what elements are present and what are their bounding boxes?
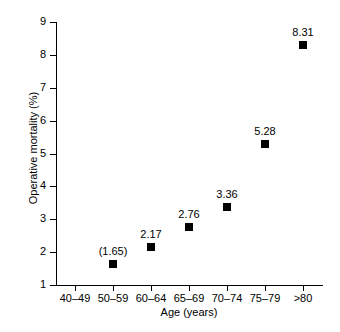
- y-axis-tick-label: 7: [28, 82, 46, 93]
- data-point-marker: [147, 243, 155, 251]
- data-point-label: (1.65): [78, 246, 148, 257]
- y-axis-tick: [50, 252, 56, 253]
- y-axis-tick-label: 8: [28, 49, 46, 60]
- data-point-label: 8.31: [268, 27, 338, 38]
- y-axis-tick: [50, 186, 56, 187]
- y-axis-tick: [50, 88, 56, 89]
- data-point-marker: [223, 203, 231, 211]
- y-axis-line: [56, 22, 57, 286]
- data-point-label: 2.17: [116, 229, 186, 240]
- y-axis-tick: [50, 22, 56, 23]
- x-axis-title: Age (years): [56, 306, 322, 318]
- y-axis-tick-label: 1: [28, 279, 46, 290]
- y-axis-tick: [50, 154, 56, 155]
- y-axis-tick-label: 3: [28, 213, 46, 224]
- x-axis-tick: [189, 285, 190, 291]
- data-point-label: 3.36: [192, 189, 262, 200]
- x-axis-tick: [113, 285, 114, 291]
- y-axis-tick-label: 9: [28, 16, 46, 27]
- data-point-label: 2.76: [154, 209, 224, 220]
- y-axis-tick: [50, 285, 56, 286]
- data-point-marker: [261, 140, 269, 148]
- y-axis-tick-label: 2: [28, 246, 46, 257]
- data-point-marker: [109, 260, 117, 268]
- x-axis-tick: [265, 285, 266, 291]
- x-axis-tick: [151, 285, 152, 291]
- data-point-marker: [299, 41, 307, 49]
- operative-mortality-by-age-chart: Operative mortality (%) 123456789 40–495…: [0, 0, 340, 332]
- x-axis-tick: [227, 285, 228, 291]
- x-axis-tick-label: >80: [273, 292, 333, 304]
- y-axis-tick-label: 4: [28, 180, 46, 191]
- y-axis-tick-label: 5: [28, 148, 46, 159]
- data-point-label: 5.28: [230, 126, 300, 137]
- x-axis-tick: [303, 285, 304, 291]
- y-axis-tick: [50, 55, 56, 56]
- y-axis-tick-label: 6: [28, 115, 46, 126]
- y-axis-tick: [50, 121, 56, 122]
- y-axis-tick: [50, 219, 56, 220]
- x-axis-tick: [75, 285, 76, 291]
- data-point-marker: [185, 223, 193, 231]
